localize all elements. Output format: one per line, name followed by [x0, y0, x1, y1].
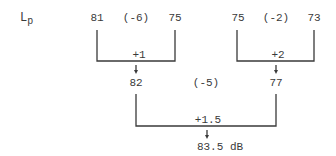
add-left: +1 [132, 49, 145, 61]
value-75-right: 75 [231, 12, 244, 24]
result-82: 82 [129, 77, 142, 89]
total-level: 83.5 dB [197, 141, 243, 153]
value-81: 81 [90, 12, 103, 24]
arrow-down-icon [274, 70, 278, 74]
add-bottom: +1.5 [195, 114, 221, 126]
arrow-down-icon [134, 70, 138, 74]
value-73: 73 [307, 12, 320, 24]
diff-middle: (-5) [193, 77, 219, 89]
result-77: 77 [269, 77, 282, 89]
arrow-down-icon [205, 135, 209, 139]
value-75-left: 75 [168, 12, 181, 24]
diff-right: (-2) [263, 12, 289, 24]
diff-left: (-6) [123, 12, 149, 24]
add-right: +2 [271, 49, 284, 61]
